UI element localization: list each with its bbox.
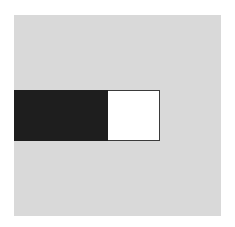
filled-bar-segment [14, 90, 109, 141]
empty-bar-segment [108, 90, 160, 141]
diagram-canvas [0, 0, 235, 227]
